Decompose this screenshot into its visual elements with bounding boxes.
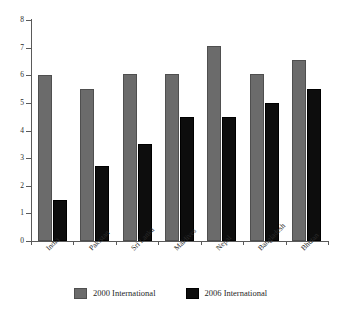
- legend-label-2006: 2006 International: [205, 288, 268, 298]
- y-axis-tick-label-wrap: 5: [0, 99, 24, 107]
- x-axis-labels: IndiaPakistanSri LankaMaldivesNepalBangl…: [31, 246, 328, 286]
- bar[interactable]: [222, 117, 236, 241]
- bar-chart: 012345678 IndiaPakistanSri LankaMaldives…: [0, 0, 341, 309]
- series-2006-swatch-icon: [186, 288, 199, 299]
- bar[interactable]: [265, 103, 279, 241]
- bar[interactable]: [250, 74, 264, 241]
- y-axis-tick-label-wrap: 4: [0, 127, 24, 135]
- bar[interactable]: [80, 89, 94, 241]
- y-axis-tick-label-wrap: 6: [0, 71, 24, 79]
- y-axis-tick-label-wrap: 3: [0, 154, 24, 162]
- bar[interactable]: [180, 117, 194, 241]
- x-axis-tick: [328, 241, 329, 245]
- x-axis-tick: [31, 241, 32, 245]
- y-axis-tick-label: 4: [2, 127, 24, 135]
- y-axis-tick-label-wrap: 0: [0, 237, 24, 245]
- x-axis-tick: [116, 241, 117, 245]
- legend-item-2006[interactable]: 2006 International: [186, 288, 268, 299]
- y-axis-tick-label: 0: [2, 237, 24, 245]
- bar[interactable]: [123, 74, 137, 241]
- bar[interactable]: [307, 89, 321, 241]
- x-axis-tick: [286, 241, 287, 245]
- x-axis-tick: [73, 241, 74, 245]
- y-axis-tick-label: 1: [2, 209, 24, 217]
- y-axis-tick-label: 6: [2, 71, 24, 79]
- x-axis-tick: [201, 241, 202, 245]
- bar[interactable]: [165, 74, 179, 241]
- legend-label-2000: 2000 International: [93, 288, 156, 298]
- y-axis-tick-label: 5: [2, 99, 24, 107]
- y-axis-tick-label: 3: [2, 154, 24, 162]
- bar[interactable]: [38, 75, 52, 241]
- y-axis-tick-label: 7: [2, 44, 24, 52]
- y-axis-tick-label-wrap: 2: [0, 182, 24, 190]
- y-axis-tick-label: 8: [2, 16, 24, 24]
- y-axis-tick-label-wrap: 7: [0, 44, 24, 52]
- bar[interactable]: [207, 46, 221, 241]
- y-axis-tick-label: 2: [2, 182, 24, 190]
- x-axis-tick: [158, 241, 159, 245]
- legend-item-2000[interactable]: 2000 International: [74, 288, 156, 299]
- plot-area: [31, 20, 328, 241]
- bar[interactable]: [292, 60, 306, 241]
- series-2000-swatch-icon: [74, 288, 87, 299]
- y-axis-tick-label-wrap: 8: [0, 16, 24, 24]
- chart-legend: 2000 International 2006 International: [0, 285, 341, 301]
- y-axis-tick-label-wrap: 1: [0, 209, 24, 217]
- x-axis-tick: [243, 241, 244, 245]
